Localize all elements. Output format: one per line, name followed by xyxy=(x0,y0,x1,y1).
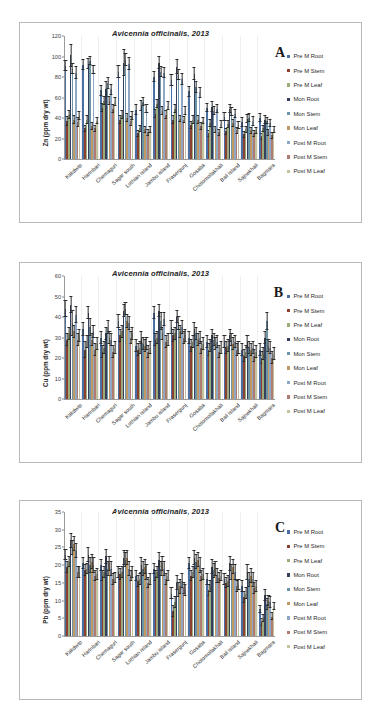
error-bar-cap-bottom xyxy=(184,341,187,342)
error-bar-cap-top xyxy=(182,582,185,583)
error-bar-cap-top xyxy=(64,549,67,550)
error-bar-cap-top xyxy=(148,341,151,342)
legend-item: Pre M Leaf xyxy=(287,78,355,92)
x-axis-labels-c: KakdwipHarinbariChemaguriSagar southLoth… xyxy=(64,637,275,695)
error-bar-cap-bottom xyxy=(237,353,240,354)
panel-letter-a: A xyxy=(275,45,285,61)
bar xyxy=(202,574,204,636)
error-bar-cap-top xyxy=(265,312,268,313)
error-bar-cap-top xyxy=(193,67,196,68)
error-bar xyxy=(235,565,236,579)
error-bar-cap-bottom xyxy=(166,580,169,581)
legend-label: Pre M Leaf xyxy=(293,82,322,88)
bar xyxy=(132,333,134,399)
error-bar-cap-top xyxy=(134,339,137,340)
y-tick-label: 0 xyxy=(58,396,61,402)
error-bar xyxy=(146,338,147,350)
bar-groups xyxy=(64,276,275,399)
error-bar-cap-bottom xyxy=(230,115,233,116)
legend-swatch-icon xyxy=(287,588,290,591)
legend-item: Pre M Stem xyxy=(287,63,355,77)
legend-swatch-icon xyxy=(287,395,290,398)
error-bar-cap-top xyxy=(269,341,272,342)
y-axis-label-b: Cu (ppm dry wt) xyxy=(42,339,49,387)
legend-swatch-icon xyxy=(287,545,290,548)
bar-group xyxy=(99,512,117,636)
error-bar-cap-top xyxy=(166,101,169,102)
error-bar-cap-top xyxy=(272,602,275,603)
bar xyxy=(96,121,98,159)
error-bar xyxy=(114,342,115,354)
error-bar-cap-top xyxy=(219,570,222,571)
error-bar-cap-top xyxy=(74,306,77,307)
error-bar xyxy=(252,572,253,586)
bar xyxy=(149,129,151,159)
legend-item: Mon Root xyxy=(287,568,355,582)
legend-swatch-icon xyxy=(287,338,290,341)
legend-swatch-icon xyxy=(287,309,290,312)
bar xyxy=(114,578,116,636)
error-bar-cap-top xyxy=(177,69,180,70)
error-bar xyxy=(266,313,267,329)
error-bar xyxy=(141,331,142,343)
error-bar-cap-bottom xyxy=(219,127,222,128)
error-bar-cap-bottom xyxy=(251,125,254,126)
bar-group xyxy=(205,512,223,636)
error-bar-cap-top xyxy=(95,568,98,569)
bar xyxy=(238,585,240,636)
error-bar-cap-top xyxy=(140,557,143,558)
y-tick-label: 60 xyxy=(55,95,61,101)
error-bar-cap-bottom xyxy=(152,318,155,319)
error-bar-cap-top xyxy=(81,557,84,558)
error-bar-cap-top xyxy=(145,337,148,338)
y-tick-label: 30 xyxy=(55,335,61,341)
error-bar-cap-top xyxy=(127,561,130,562)
y-tick-label: 40 xyxy=(55,314,61,320)
error-bar-cap-top xyxy=(272,126,275,127)
error-bar-cap-top xyxy=(223,335,226,336)
error-bar-cap-top xyxy=(223,112,226,113)
bar-groups xyxy=(64,36,275,159)
error-bar xyxy=(217,335,218,347)
bar-group xyxy=(258,512,275,636)
error-bar-cap-top xyxy=(216,104,219,105)
legend-swatch-icon xyxy=(287,83,290,86)
error-bar-cap-top xyxy=(188,86,191,87)
plot-area-a: 020406080100120 xyxy=(64,36,275,159)
legend-item: Mon Stem xyxy=(287,107,355,121)
error-bar-cap-top xyxy=(131,111,134,112)
error-bar xyxy=(128,317,129,329)
legend-label: Pre M Stem xyxy=(293,308,324,314)
error-bar-cap-top xyxy=(163,312,166,313)
error-bar xyxy=(97,338,98,350)
error-bar-cap-bottom xyxy=(152,81,155,82)
x-tick-label: Bagmara xyxy=(256,162,276,181)
error-bar xyxy=(75,307,76,323)
error-bar xyxy=(107,321,108,333)
error-bar-cap-bottom xyxy=(166,345,169,346)
error-bar-cap-top xyxy=(249,568,252,569)
error-bar-cap-top xyxy=(233,564,236,565)
bar xyxy=(273,354,275,399)
error-bar-cap-bottom xyxy=(131,577,134,578)
error-bar-cap-top xyxy=(198,331,201,332)
bar-group xyxy=(64,276,82,399)
error-bar-cap-top xyxy=(95,337,98,338)
error-bar xyxy=(159,305,160,317)
bar-group xyxy=(82,276,100,399)
error-bar xyxy=(65,301,66,317)
error-bar-cap-bottom xyxy=(78,119,81,120)
legend-swatch-icon xyxy=(287,573,290,576)
error-bar-cap-bottom xyxy=(237,128,240,129)
error-bar-cap-top xyxy=(254,580,257,581)
y-tick-label: 40 xyxy=(55,115,61,121)
error-bar-cap-top xyxy=(175,59,178,60)
error-bar-cap-bottom xyxy=(219,580,222,581)
error-bar-cap-bottom xyxy=(95,349,98,350)
x-tick-label: Bagmara xyxy=(256,402,276,421)
legend-swatch-icon xyxy=(287,559,290,562)
error-bar xyxy=(83,323,84,335)
y-tick-label: 15 xyxy=(55,580,61,586)
error-bar-cap-top xyxy=(64,300,67,301)
bar xyxy=(114,348,116,399)
